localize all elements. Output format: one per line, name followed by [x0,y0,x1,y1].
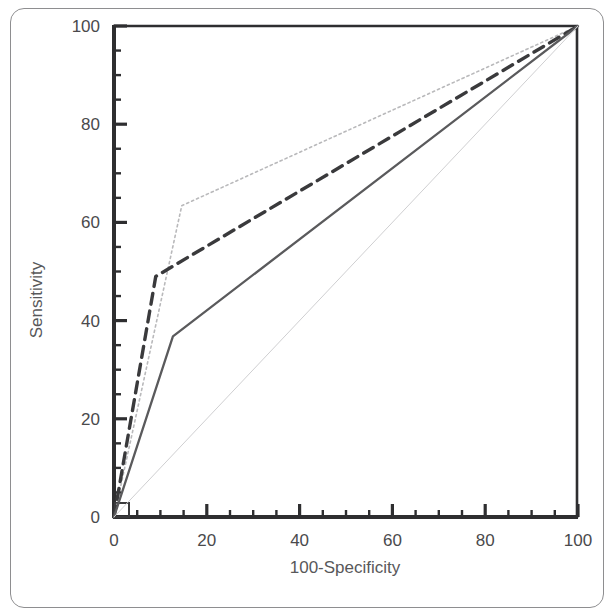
x-tick-label: 80 [476,531,495,550]
y-tick-label: 60 [81,213,100,232]
x-axis-tick-labels: 020406080100 [109,531,592,550]
y-axis-title: Sensitivity [27,261,46,338]
y-tick-label: 40 [81,312,100,331]
y-tick-label: 20 [81,410,100,429]
y-tick-label: 100 [72,17,100,36]
y-tick-label: 80 [81,115,100,134]
y-tick-label: 0 [91,508,100,527]
y-axis-tick-labels: 020406080100 [72,17,100,527]
x-tick-label: 100 [564,531,592,550]
x-tick-label: 0 [109,531,118,550]
x-tick-label: 20 [197,531,216,550]
x-tick-label: 60 [383,531,402,550]
x-axis-title: 100-Specificity [290,558,401,577]
x-tick-label: 40 [290,531,309,550]
